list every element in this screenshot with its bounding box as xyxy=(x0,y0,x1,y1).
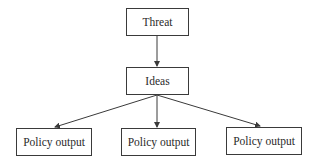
node-policy-output-1-label: Policy output xyxy=(23,136,85,148)
flowchart-diagram: Threat Ideas Policy output Policy output… xyxy=(0,0,318,166)
node-policy-output-1: Policy output xyxy=(16,128,92,156)
node-ideas: Ideas xyxy=(126,67,189,95)
node-ideas-label: Ideas xyxy=(145,75,169,87)
node-policy-output-2: Policy output xyxy=(121,128,196,156)
edge-ideas-to-policy1 xyxy=(55,95,157,127)
node-threat-label: Threat xyxy=(142,16,172,28)
node-policy-output-3-label: Policy output xyxy=(233,135,295,147)
node-policy-output-3: Policy output xyxy=(226,127,302,155)
node-policy-output-2-label: Policy output xyxy=(128,136,190,148)
edge-ideas-to-policy3 xyxy=(157,95,260,126)
node-threat: Threat xyxy=(126,8,189,36)
